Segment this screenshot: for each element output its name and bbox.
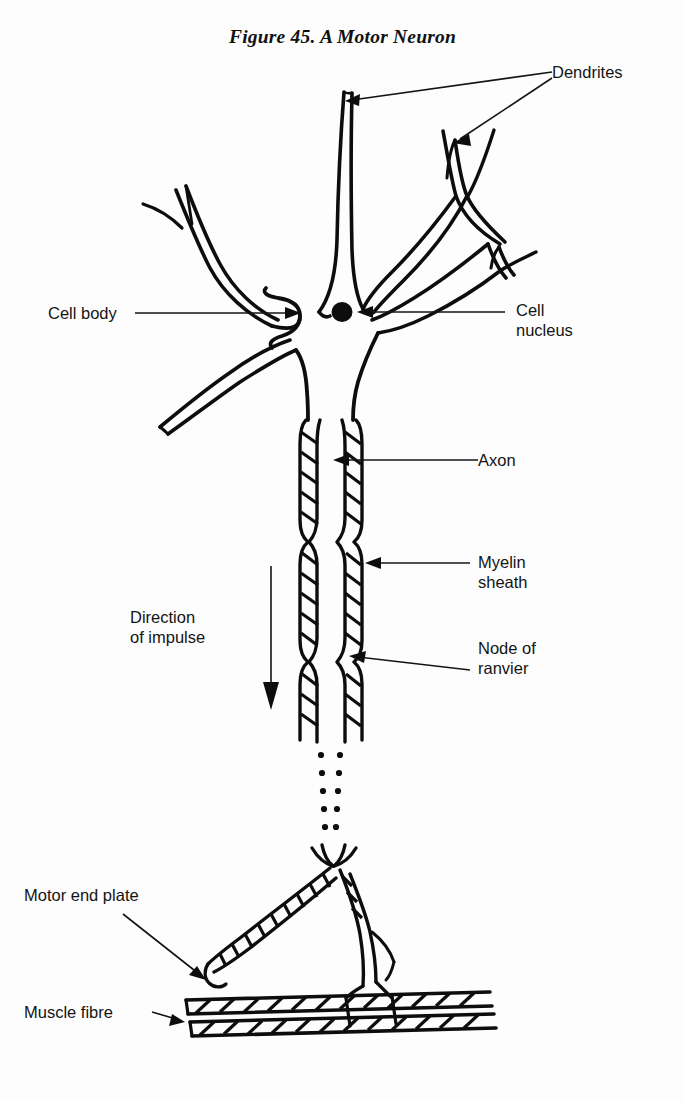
terminal-hatch-left bbox=[220, 874, 330, 966]
label-direction-line1: Direction bbox=[130, 607, 195, 627]
leader-node bbox=[358, 657, 470, 670]
figure-page: Figure 45. A Motor Neuron bbox=[0, 0, 685, 1102]
label-node-line1: Node of bbox=[478, 638, 536, 658]
myelin-hatch-right bbox=[345, 432, 361, 726]
muscle-fibre-shape bbox=[186, 992, 496, 1036]
label-cell-nucleus-line2: nucleus bbox=[516, 320, 573, 340]
leader-dendrites-2 bbox=[460, 78, 552, 139]
label-cell-body: Cell body bbox=[48, 303, 117, 323]
label-node-line2: ranvier bbox=[478, 658, 528, 678]
label-motor-end-plate: Motor end plate bbox=[24, 885, 139, 905]
leader-dendrites-1 bbox=[352, 72, 552, 100]
motor-neuron-diagram bbox=[0, 0, 685, 1102]
myelin-sheath-shape bbox=[300, 420, 362, 742]
axon-terminal-branches bbox=[205, 845, 394, 998]
label-direction-line2: of impulse bbox=[130, 627, 205, 647]
dendrites-group bbox=[143, 92, 536, 434]
label-axon: Axon bbox=[478, 450, 516, 470]
label-myelin-line1: Myelin bbox=[478, 552, 526, 572]
impulse-direction-arrow-head bbox=[263, 682, 279, 710]
cell-nucleus-dot bbox=[332, 302, 353, 322]
leader-motor-end-plate bbox=[123, 914, 199, 974]
label-myelin-line2: sheath bbox=[478, 572, 528, 592]
label-cell-nucleus-line1: Cell bbox=[516, 300, 544, 320]
label-muscle-fibre: Muscle fibre bbox=[24, 1002, 113, 1022]
axon-break-dots bbox=[318, 752, 343, 830]
label-dendrites: Dendrites bbox=[552, 62, 623, 82]
